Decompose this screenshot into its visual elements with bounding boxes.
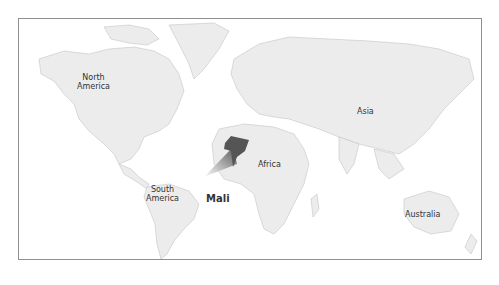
label-north-america: North America xyxy=(77,73,110,91)
label-australia: Australia xyxy=(405,210,440,219)
label-asia: Asia xyxy=(357,107,374,116)
label-africa: Africa xyxy=(258,160,281,169)
world-map xyxy=(19,19,482,260)
map-frame: North America South America Africa Asia … xyxy=(18,18,482,260)
greenland-landmass xyxy=(169,23,229,79)
north-america-landmass xyxy=(39,47,184,164)
label-mali: Mali xyxy=(206,193,230,204)
africa-landmass xyxy=(212,124,309,234)
label-south-america: South America xyxy=(146,185,179,203)
